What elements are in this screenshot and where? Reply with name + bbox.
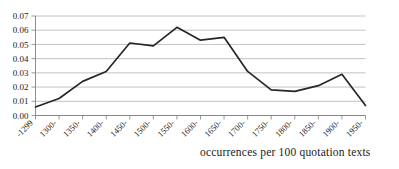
y-axis xyxy=(32,16,36,116)
x-axis xyxy=(36,116,366,120)
x-tick-label: 1450- xyxy=(108,118,129,139)
y-tick-label: 0.03 xyxy=(13,68,29,78)
x-tick-label: 1350- xyxy=(61,118,82,139)
x-tick-label: 1550- xyxy=(155,118,176,139)
x-tick-label: -1299 xyxy=(14,118,35,139)
x-tick-label: 1750- xyxy=(250,118,271,139)
y-tick-labels: 0.000.010.020.030.040.050.060.07 xyxy=(13,11,29,121)
grid-lines xyxy=(36,16,366,116)
x-tick-label: 1600- xyxy=(179,118,200,139)
x-tick-label: 1950- xyxy=(344,118,365,139)
x-tick-label: 1800- xyxy=(273,118,294,139)
y-tick-label: 0.05 xyxy=(13,40,29,50)
x-tick-labels: -12991300-1350-1400-1450-1500-1550-1600-… xyxy=(14,118,365,139)
y-tick-label: 0.07 xyxy=(13,11,29,21)
y-tick-label: 0.02 xyxy=(13,82,29,92)
y-tick-label: 0.06 xyxy=(13,25,29,35)
y-tick-label: 0.01 xyxy=(13,96,29,106)
x-tick-label: 1500- xyxy=(132,118,153,139)
series-line xyxy=(36,27,366,107)
data-series xyxy=(36,27,366,107)
x-tick-label: 1850- xyxy=(297,118,318,139)
x-tick-label: 1300- xyxy=(37,118,58,139)
x-tick-label: 1900- xyxy=(320,118,341,139)
chart-caption: occurrences per 100 quotation texts xyxy=(200,146,371,158)
line-chart: 0.000.010.020.030.040.050.060.07 -129913… xyxy=(0,0,399,169)
chart-container: 0.000.010.020.030.040.050.060.07 -129913… xyxy=(0,0,399,169)
y-tick-label: 0.04 xyxy=(13,54,29,64)
x-tick-label: 1700- xyxy=(226,118,247,139)
x-tick-label: 1400- xyxy=(85,118,106,139)
x-tick-label: 1650- xyxy=(202,118,223,139)
